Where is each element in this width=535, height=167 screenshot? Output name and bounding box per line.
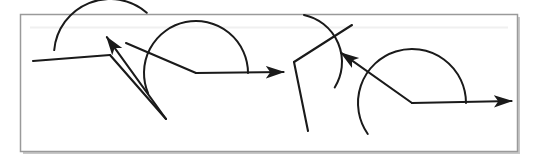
outer-border: [21, 15, 518, 152]
figure-2-ray-right-arrow: [196, 72, 284, 73]
figure-canvas: [0, 0, 535, 167]
angles-diagram-svg: [0, 0, 535, 167]
